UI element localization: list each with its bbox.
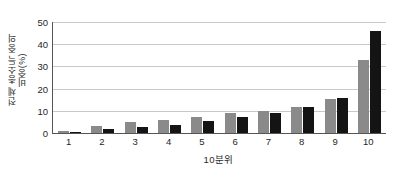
- bar: [358, 60, 369, 133]
- x-axis-title: 10분위: [52, 152, 385, 166]
- bar-group: [120, 22, 153, 133]
- y-axis-tick-label: 50: [37, 17, 48, 28]
- x-axis-tick-labels: 12345678910: [52, 136, 385, 147]
- bar-group: [53, 22, 86, 133]
- bar: [91, 126, 102, 133]
- bar-group: [253, 22, 286, 133]
- bar: [203, 121, 214, 133]
- bar-group: [286, 22, 319, 133]
- x-axis-tick-label: 6: [218, 136, 251, 147]
- bar: [337, 98, 348, 133]
- bar-group: [219, 22, 252, 133]
- x-axis-tick-label: 4: [152, 136, 185, 147]
- x-axis-tick-label: 3: [119, 136, 152, 147]
- y-axis-tick-labels: 01020304050: [30, 0, 50, 178]
- bar: [103, 129, 114, 133]
- bar: [303, 107, 314, 133]
- bar: [170, 125, 181, 133]
- bar: [237, 117, 248, 133]
- y-axis-tick-label: 0: [43, 128, 48, 139]
- y-axis-tick-label: 10: [37, 105, 48, 116]
- plot-area: [52, 22, 386, 134]
- bar: [258, 111, 269, 133]
- x-axis-tick-label: 10: [352, 136, 385, 147]
- bar: [158, 120, 169, 133]
- x-axis-tick-label: 9: [318, 136, 351, 147]
- bar: [291, 107, 302, 133]
- bar-group: [86, 22, 119, 133]
- x-axis-tick-label: 7: [252, 136, 285, 147]
- bar: [70, 132, 81, 133]
- bar: [58, 131, 69, 133]
- bar: [125, 122, 136, 133]
- x-axis-tick-label: 8: [285, 136, 318, 147]
- bar-chart: 전체 총소득 중의 비중(%) 01020304050 12345678910 …: [0, 0, 398, 178]
- y-axis-tick-label: 30: [37, 61, 48, 72]
- bar-group: [319, 22, 352, 133]
- bar: [325, 99, 336, 133]
- bar: [225, 113, 236, 133]
- bar: [270, 113, 281, 133]
- bar-group: [186, 22, 219, 133]
- bar: [137, 127, 148, 133]
- bar: [370, 31, 381, 133]
- x-axis-tick-label: 2: [85, 136, 118, 147]
- y-axis-tick-label: 40: [37, 39, 48, 50]
- bars-layer: [53, 22, 386, 133]
- bar-group: [353, 22, 386, 133]
- y-axis-title-line-1: 전체 총소득 중의: [7, 34, 17, 106]
- bar-group: [153, 22, 186, 133]
- bar: [191, 117, 202, 133]
- x-axis-tick-label: 1: [52, 136, 85, 147]
- y-axis-title: 전체 총소득 중의 비중(%): [0, 0, 34, 140]
- y-axis-tick-label: 20: [37, 83, 48, 94]
- y-axis-title-line-2: 비중(%): [17, 53, 27, 87]
- x-axis-tick-label: 5: [185, 136, 218, 147]
